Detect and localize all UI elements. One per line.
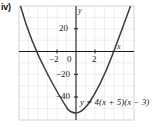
y-tick-label-minus20: −20 xyxy=(56,70,70,79)
x-tick-label-minus2: −2 xyxy=(49,55,59,64)
item-label: iv) xyxy=(1,2,11,12)
x-tick-label-0: 0 xyxy=(67,55,72,64)
y-tick-label-minus40: −40 xyxy=(56,92,70,101)
parabola-chart xyxy=(0,0,166,127)
equation-annotation: y = 4(x + 5)(x − 3) xyxy=(80,97,149,107)
figure-container: iv) xyxy=(0,0,166,127)
y-tick-label-20: 20 xyxy=(59,24,68,33)
x-axis-label: x xyxy=(117,43,121,51)
y-axis-label: y xyxy=(78,7,82,15)
x-tick-label-2: 2 xyxy=(92,55,97,64)
